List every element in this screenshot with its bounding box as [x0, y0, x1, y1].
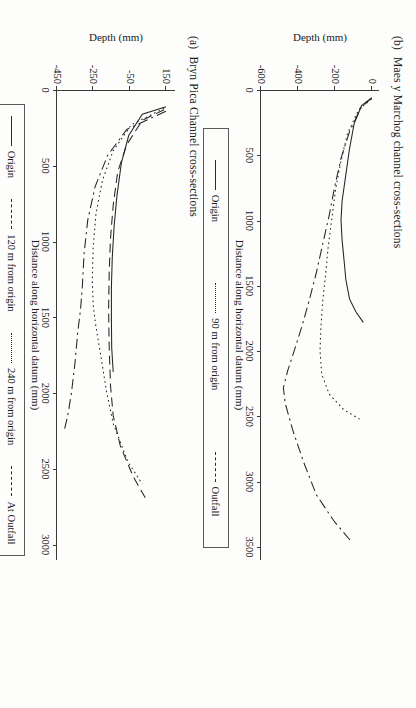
legend-label: 90 m from origin — [211, 318, 222, 390]
figure-b-tag: (b) — [392, 36, 404, 50]
figure-a-ytick — [165, 86, 166, 90]
figure-b-ytick-label: 0 — [366, 52, 377, 84]
legend-label: Origin — [211, 195, 222, 222]
legend-item-outfall-a: At Outfall — [7, 466, 18, 544]
figure-a-xtick — [53, 317, 57, 318]
figure-a-tag: (a) — [188, 36, 200, 49]
figure-a-xtick — [53, 242, 57, 243]
figure-b-ytick-label: -200 — [329, 52, 340, 84]
series-outfall-a — [64, 111, 166, 431]
figure-a-ytick-label: -50 — [124, 52, 135, 84]
figure-a-title: (a)Bryn Pica Channel cross-sections — [188, 36, 200, 217]
figure-b-xtick-label: 0 — [244, 87, 255, 92]
figure-a-legend: Origin 120 m from origin 240 m from orig… — [0, 104, 25, 556]
figure-b-xtick-label: 1000 — [244, 210, 255, 231]
legend-item-origin-b: Origin — [211, 160, 222, 222]
figure-b-xtick — [257, 547, 261, 548]
figure-a-ytick — [92, 86, 93, 90]
legend-item-outfall-b: Outfall — [211, 452, 222, 517]
figure-b-title: (b)Maes y Marchog channel cross-sections — [392, 36, 404, 248]
figure-a-xtick — [53, 545, 57, 546]
legend-item-origin-a: Origin — [7, 116, 18, 178]
figure-b-x-axis-title: Distance along horizontal datum (mm) — [234, 240, 246, 410]
series-120m-a — [109, 110, 165, 499]
figure-a-x-axis — [56, 90, 57, 560]
figure-a-xtick-label: 2500 — [40, 459, 51, 480]
figure-a-ytick — [56, 86, 57, 90]
figure-a-ytick-label: 150 — [160, 52, 171, 84]
figure-b-plot: 0 500 1000 1500 2000 2500 3000 3500 0 -2… — [261, 90, 379, 560]
figure-a-xtick-label: 0 — [40, 87, 51, 92]
figure-a-xtick-label: 500 — [40, 158, 51, 174]
series-origin-a — [111, 107, 165, 372]
figure-a-ytick-label: -450 — [52, 52, 63, 84]
legend-key-dash — [12, 199, 13, 229]
figure-b-xtick — [257, 482, 261, 483]
figure-b-x-axis — [260, 90, 261, 560]
legend-key-dashdot — [216, 452, 217, 482]
figure-b-ytick — [334, 86, 335, 90]
figure-b-xtick-label: 3000 — [244, 471, 255, 492]
figure-a-ytick-label: -250 — [88, 52, 99, 84]
figure-b-xtick-label: 500 — [244, 147, 255, 163]
figure-page: (a)Bryn Pica Channel cross-sections — [0, 0, 416, 708]
figure-a-x-axis-title: Distance along horizontal datum (mm) — [30, 240, 42, 410]
figure-b-container: (b)Maes y Marchog channel cross-sections — [214, 18, 404, 618]
figure-a-title-text: Bryn Pica Channel cross-sections — [188, 56, 200, 217]
legend-label: Origin — [7, 151, 18, 178]
figure-b-xtick — [257, 286, 261, 287]
figure-b-ytick — [297, 86, 298, 90]
figure-b-y-axis — [261, 90, 379, 91]
figure-a-y-axis-title: Depth (mm) — [89, 31, 143, 43]
legend-label: Outfall — [211, 487, 222, 517]
figure-a-ytick — [129, 86, 130, 90]
series-240m-a — [92, 108, 164, 484]
figure-a-xtick — [53, 469, 57, 470]
figure-b-ytick-label: -600 — [256, 52, 267, 84]
figure-b-ytick-label: -400 — [292, 52, 303, 84]
legend-key-dashdot — [12, 466, 13, 496]
series-outfall-b — [283, 98, 371, 541]
legend-label: At Outfall — [7, 501, 18, 544]
figure-b-xtick — [257, 351, 261, 352]
legend-item-240m-a: 240 m from origin — [7, 333, 18, 445]
figure-a-curves — [57, 90, 175, 560]
legend-key-solid — [216, 160, 217, 190]
figure-a-y-axis — [57, 90, 175, 91]
figure-a-plot: 0 500 1000 1500 2000 2500 3000 150 -50 -… — [57, 90, 175, 560]
figure-a-xtick-label: 3000 — [40, 534, 51, 555]
figure-b-title-text: Maes y Marchog channel cross-sections — [392, 57, 404, 248]
legend-label: 240 m from origin — [7, 368, 18, 445]
figure-b-xtick — [257, 155, 261, 156]
legend-key-dot — [12, 333, 13, 363]
legend-key-solid — [12, 116, 13, 146]
figure-b-legend: Origin 90 m from origin Outfall — [203, 128, 229, 548]
figure-b-y-axis-title: Depth (mm) — [293, 31, 347, 43]
series-origin-b — [341, 98, 372, 323]
figure-b-xtick — [257, 90, 261, 91]
series-90m-b — [320, 99, 372, 419]
legend-key-dot — [216, 283, 217, 313]
legend-item-90m-b: 90 m from origin — [211, 283, 222, 390]
figure-a-xtick — [53, 90, 57, 91]
legend-label: 120 m from origin — [7, 234, 18, 311]
figure-b-ytick — [260, 86, 261, 90]
figure-a-xtick — [53, 166, 57, 167]
figure-a-container: (a)Bryn Pica Channel cross-sections — [10, 18, 200, 618]
figure-b-curves — [261, 90, 379, 560]
figure-b-xtick-label: 3500 — [244, 537, 255, 558]
figure-b-xtick — [257, 221, 261, 222]
legend-item-120m-a: 120 m from origin — [7, 199, 18, 311]
figure-a-xtick — [53, 393, 57, 394]
figure-b-xtick — [257, 416, 261, 417]
figure-b-ytick — [371, 86, 372, 90]
